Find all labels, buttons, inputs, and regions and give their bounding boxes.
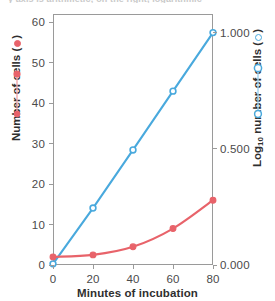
y-axis-right-tick-mark <box>213 148 217 149</box>
chart-figure: y axis is arithmetic; on the right, loga… <box>0 0 275 301</box>
legend-filled-circle-icon <box>14 40 21 47</box>
y-axis-right-title-text: Log <box>251 146 263 167</box>
y-axis-right-tick-label: 0.000 <box>220 259 250 271</box>
right-legend-stem <box>249 56 267 126</box>
y-axis-left-tick-label: 0 <box>0 259 45 271</box>
x-axis-tick-label: 20 <box>86 273 99 285</box>
x-axis-tick-mark <box>93 265 94 269</box>
y-axis-right-title-suffix: ) <box>251 29 263 33</box>
data-point[interactable] <box>50 254 56 260</box>
data-point[interactable] <box>170 226 176 232</box>
data-point[interactable] <box>90 205 96 211</box>
left-legend-stem <box>8 64 26 124</box>
data-point[interactable] <box>50 261 56 267</box>
x-axis-tick-label: 40 <box>126 273 139 285</box>
legend-open-circle-icon <box>255 34 262 41</box>
x-axis-tick-label: 80 <box>206 273 219 285</box>
x-axis-tick-mark <box>133 265 134 269</box>
x-axis-title: Minutes of incubation <box>0 287 275 299</box>
y-axis-right-tick-mark <box>213 265 217 266</box>
x-axis-tick-mark <box>213 265 214 269</box>
y-axis-left-title-suffix: ) <box>10 35 22 39</box>
data-point[interactable] <box>130 244 136 250</box>
data-point[interactable] <box>130 147 136 153</box>
series-line-arithmetic <box>50 197 216 259</box>
x-axis-tick-label: 0 <box>50 273 57 285</box>
data-point[interactable] <box>90 252 96 258</box>
data-point[interactable] <box>210 197 216 203</box>
data-point[interactable] <box>170 88 176 94</box>
x-axis-tick-label: 60 <box>166 273 179 285</box>
y-axis-right-tick-label: 1.000 <box>220 27 250 39</box>
plot-svg <box>53 14 213 265</box>
data-point[interactable] <box>210 30 216 36</box>
x-axis-tick-mark <box>173 265 174 269</box>
y-axis-right-title-subscript: 10 <box>256 137 265 146</box>
top-caption-fragment: y axis is arithmetic; on the right, loga… <box>8 0 228 3</box>
y-axis-right-tick-label: 0.500 <box>220 143 250 155</box>
series-line-log10 <box>50 30 216 267</box>
y-axis-left-tick-label: 10 <box>0 219 45 231</box>
